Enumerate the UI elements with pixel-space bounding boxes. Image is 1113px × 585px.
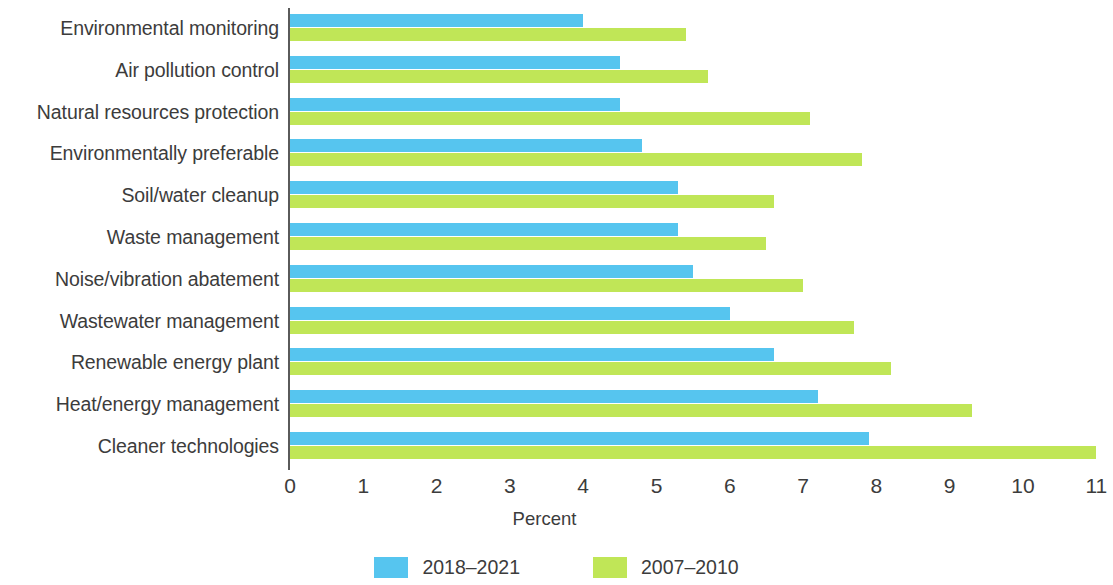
category-label: Soil/water cleanup	[121, 175, 279, 217]
bar	[290, 446, 1096, 459]
category-label: Environmental monitoring	[60, 8, 279, 50]
x-tick-label: 3	[504, 474, 516, 498]
bar-group: Heat/energy management	[0, 384, 1113, 426]
bar-pair	[290, 133, 1110, 175]
category-label: Cleaner technologies	[98, 426, 279, 468]
bar	[290, 237, 766, 250]
x-tick-label: 11	[1085, 474, 1107, 498]
bar-pair	[290, 50, 1110, 92]
bar	[290, 362, 891, 375]
bar	[290, 223, 678, 236]
bar	[290, 153, 862, 166]
bar-group: Natural resources protection	[0, 92, 1113, 134]
plot-area: Environmental monitoringAir pollution co…	[0, 0, 1113, 472]
bar-pair	[290, 92, 1110, 134]
bar	[290, 390, 818, 403]
bar-pair	[290, 426, 1110, 468]
legend-label: 2007–2010	[641, 556, 739, 579]
bar	[290, 139, 642, 152]
bar	[290, 348, 774, 361]
bar-pair	[290, 384, 1110, 426]
bar-group: Wastewater management	[0, 301, 1113, 343]
bar	[290, 14, 583, 27]
bar	[290, 70, 708, 83]
bar	[290, 404, 972, 417]
category-label: Heat/energy management	[56, 384, 279, 426]
x-axis-title: Percent	[0, 508, 1113, 530]
x-tick-label: 2	[431, 474, 443, 498]
x-tick-label: 5	[651, 474, 663, 498]
bar-group: Renewable energy plant	[0, 342, 1113, 384]
category-label: Natural resources protection	[37, 92, 279, 134]
category-label: Noise/vibration abatement	[55, 259, 279, 301]
x-tick-label: 0	[284, 474, 296, 498]
legend-item[interactable]: 2018–2021	[374, 556, 520, 579]
legend-swatch-icon	[593, 557, 627, 578]
bar	[290, 98, 620, 111]
bar-chart: Environmental monitoringAir pollution co…	[0, 0, 1113, 585]
bar	[290, 432, 869, 445]
x-tick-label: 10	[1011, 474, 1034, 498]
x-axis-title-text: Percent	[513, 508, 577, 529]
x-axis-ticks: 01234567891011	[0, 470, 1113, 510]
bar-group: Air pollution control	[0, 50, 1113, 92]
x-tick-label: 8	[871, 474, 883, 498]
x-tick-label: 1	[357, 474, 369, 498]
category-label: Air pollution control	[115, 50, 279, 92]
bar	[290, 321, 854, 334]
bar-rows: Environmental monitoringAir pollution co…	[0, 8, 1113, 468]
bar	[290, 307, 730, 320]
category-label: Waste management	[107, 217, 279, 259]
bar-pair	[290, 217, 1110, 259]
bar-pair	[290, 259, 1110, 301]
bar-pair	[290, 342, 1110, 384]
bar-group: Waste management	[0, 217, 1113, 259]
x-tick-label: 4	[577, 474, 589, 498]
legend-label: 2018–2021	[422, 556, 520, 579]
bar-group: Noise/vibration abatement	[0, 259, 1113, 301]
x-tick-label: 6	[724, 474, 736, 498]
bar-group: Soil/water cleanup	[0, 175, 1113, 217]
bar	[290, 195, 774, 208]
x-tick-label: 7	[797, 474, 809, 498]
bar	[290, 112, 810, 125]
bar	[290, 279, 803, 292]
legend-swatch-icon	[374, 557, 408, 578]
bar-group: Environmental monitoring	[0, 8, 1113, 50]
bar-group: Cleaner technologies	[0, 426, 1113, 468]
bar-pair	[290, 301, 1110, 343]
category-label: Environmentally preferable	[50, 133, 279, 175]
legend-item[interactable]: 2007–2010	[593, 556, 739, 579]
bar	[290, 28, 686, 41]
bar	[290, 265, 693, 278]
category-label: Wastewater management	[60, 301, 279, 343]
category-label: Renewable energy plant	[71, 342, 279, 384]
bar	[290, 56, 620, 69]
chart-legend: 2018–20212007–2010	[0, 556, 1113, 579]
bar	[290, 181, 678, 194]
x-tick-label: 9	[944, 474, 956, 498]
bar-group: Environmentally preferable	[0, 133, 1113, 175]
bar-pair	[290, 8, 1110, 50]
bar-pair	[290, 175, 1110, 217]
